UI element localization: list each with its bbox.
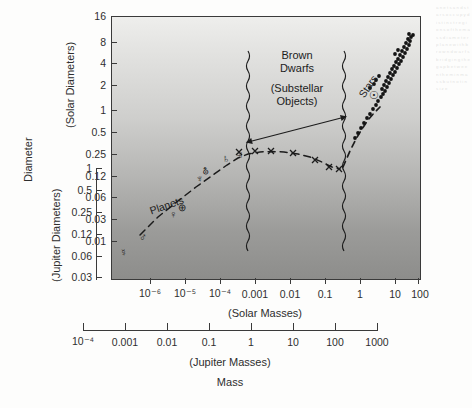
ytick-mark-jupiter: [96, 256, 102, 257]
ytick-mark-jupiter: [96, 234, 102, 235]
xtick-label-solar: 100: [400, 289, 440, 300]
ytick-mark-solar: [111, 63, 117, 64]
xtick-mark-jupiter: [209, 323, 210, 330]
x-axis-unit-jupiter: (Jupiter Masses): [160, 356, 300, 368]
xtick-label-solar: 10⁻⁵: [165, 288, 205, 299]
brown-dwarfs-line-1: Brown: [255, 49, 339, 62]
substellar-line-2: Objects): [255, 95, 339, 108]
xtick-label-solar: 0.01: [270, 289, 310, 300]
star-sequence-curve: [343, 107, 380, 167]
y-axis-unit-jupiter: (Jupiter Diameters): [50, 188, 62, 282]
xtick-mark-jupiter: [377, 323, 378, 330]
plot-inner: Brown Dwarfs (Substellar Objects) Planet…: [112, 17, 420, 279]
ytick-mark-solar: [111, 154, 117, 155]
brown-dwarf-span-arrow: [252, 118, 341, 141]
jupiter-mass-axis-line: [83, 330, 378, 331]
xtick-mark-solar: [220, 278, 221, 284]
ytick-mark-solar: [111, 176, 117, 177]
symbol-earth: ⊕: [178, 203, 186, 213]
page-bleedthrough: a n e t s a n d s t a r s o c c u p y d …: [436, 4, 470, 244]
mass-diameter-figure: Brown Dwarfs (Substellar Objects) Planet…: [0, 0, 472, 408]
ytick-mark-solar: [111, 219, 117, 220]
ytick-mark-jupiter: [96, 212, 102, 213]
xtick-label-jupiter: 0.01: [147, 337, 187, 348]
xtick-mark-solar: [255, 278, 256, 284]
brown-dwarf-right-boundary: [342, 51, 345, 251]
xtick-label-jupiter: 100: [315, 337, 355, 348]
planet-sequence-curve: [140, 152, 340, 236]
x-axis-title: Mass: [185, 376, 275, 388]
xtick-label-jupiter: 1: [231, 337, 271, 348]
xtick-mark-jupiter: [335, 323, 336, 330]
xtick-mark-solar: [290, 278, 291, 284]
ytick-label-jupiter: 1: [54, 163, 92, 174]
xtick-mark-solar: [325, 278, 326, 284]
xtick-mark-solar: [185, 278, 186, 284]
brown-dwarfs-line-2: Dwarfs: [255, 62, 339, 75]
symbol-sun: ☉: [369, 90, 379, 101]
ytick-mark-solar: [111, 42, 117, 43]
xtick-mark-jupiter: [251, 323, 252, 330]
x-axis-unit-solar: (Solar Masses): [195, 307, 335, 319]
symbol-jupiter: ♃: [235, 149, 243, 160]
symbol-venus: ♀: [169, 209, 177, 220]
ytick-mark-solar: [111, 197, 117, 198]
brown-dwarfs-annotation: Brown Dwarfs (Substellar Objects): [255, 49, 339, 108]
xtick-label-jupiter: 0.1: [189, 337, 229, 348]
ytick-label-solar: 0.5: [68, 127, 106, 138]
xtick-mark-jupiter: [293, 323, 294, 330]
ytick-mark-solar: [111, 16, 117, 17]
xtick-label-jupiter: 10: [273, 337, 313, 348]
xtick-mark-jupiter: [83, 323, 84, 330]
xtick-mark-jupiter: [167, 323, 168, 330]
xtick-label-solar: 0.001: [235, 289, 275, 300]
ytick-mark-solar: [111, 85, 117, 86]
ytick-mark-solar: [111, 241, 117, 242]
ytick-label-solar: 0.25: [68, 149, 106, 160]
xtick-label-jupiter: 1000: [357, 337, 397, 348]
xtick-label-solar: 1: [340, 289, 380, 300]
xtick-label-jupiter: 0.001: [105, 337, 145, 348]
brown-dwarf-x-markers: [236, 148, 342, 172]
ytick-mark-solar: [111, 110, 117, 111]
xtick-label-solar: 10⁻⁶: [130, 288, 170, 299]
y-axis-unit-solar: (Solar Diameters): [64, 42, 76, 128]
ytick-mark-jupiter: [96, 168, 102, 169]
xtick-mark-solar: [395, 278, 396, 284]
substellar-line-1: (Substellar: [255, 82, 339, 95]
xtick-label-solar: 0.1: [305, 289, 345, 300]
xtick-mark-jupiter: [125, 323, 126, 330]
ytick-mark-jupiter: [96, 277, 102, 278]
jupiter-diameter-axis-line: [96, 168, 97, 280]
xtick-label-jupiter: 10⁻⁴: [63, 336, 103, 347]
ytick-mark-jupiter: [96, 190, 102, 191]
xtick-mark-solar: [360, 278, 361, 284]
ytick-label-solar: 16: [68, 11, 106, 22]
xtick-mark-solar: [418, 278, 419, 284]
y-axis-title: Diameter: [22, 137, 34, 182]
xtick-label-solar: 10⁻⁴: [200, 288, 240, 299]
symbol-saturn: ♄: [222, 153, 230, 164]
brown-dwarf-left-boundary: [246, 51, 249, 251]
ytick-mark-solar: [111, 132, 117, 133]
xtick-mark-solar: [150, 278, 151, 284]
symbol-mercury: ☿: [119, 247, 128, 258]
symbol-mars: ♂: [138, 231, 148, 243]
plot-area: Brown Dwarfs (Substellar Objects) Planet…: [111, 16, 421, 280]
